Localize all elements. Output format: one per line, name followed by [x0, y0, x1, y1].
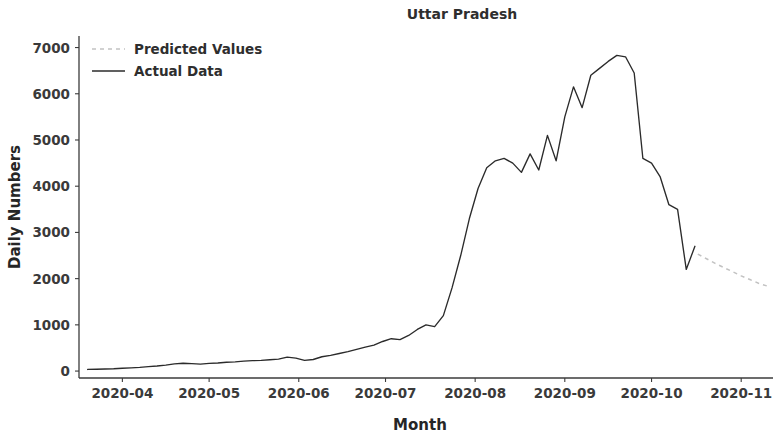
y-axis-ticks: 01000200030004000500060007000	[32, 40, 79, 380]
y-axis-title: Daily Numbers	[6, 145, 24, 269]
y-tick-label: 0	[61, 363, 70, 379]
y-tick-label: 7000	[32, 40, 70, 56]
x-tick-label: 2020-05	[178, 385, 240, 401]
x-tick-label: 2020-04	[91, 385, 153, 401]
legend-label-predicted-values: Predicted Values	[134, 41, 262, 57]
x-axis-ticks: 2020-042020-052020-062020-072020-082020-…	[91, 378, 772, 401]
legend-entry-predicted-values: Predicted Values	[92, 41, 262, 57]
y-tick-label: 3000	[32, 224, 70, 240]
x-axis-title: Month	[393, 416, 447, 434]
line-chart: Uttar Pradesh 01000200030004000500060007…	[0, 0, 775, 436]
y-tick-label: 5000	[32, 132, 70, 148]
chart-legend: Predicted Values Actual Data	[92, 41, 262, 79]
series-line-predicted-values	[698, 254, 767, 286]
x-tick-label: 2020-08	[444, 385, 506, 401]
legend-entry-actual-data: Actual Data	[92, 63, 223, 79]
y-tick-label: 1000	[32, 317, 70, 333]
x-tick-label: 2020-10	[621, 385, 683, 401]
y-tick-label: 4000	[32, 178, 70, 194]
legend-label-actual-data: Actual Data	[134, 63, 223, 79]
x-tick-label: 2020-09	[534, 385, 596, 401]
chart-title: Uttar Pradesh	[407, 6, 517, 22]
x-tick-label: 2020-06	[268, 385, 330, 401]
x-tick-label: 2020-11	[710, 385, 772, 401]
chart-figure: Uttar Pradesh 01000200030004000500060007…	[0, 0, 775, 436]
x-tick-label: 2020-07	[355, 385, 417, 401]
y-tick-label: 2000	[32, 271, 70, 287]
y-tick-label: 6000	[32, 86, 70, 102]
series-line-actual-data	[88, 55, 695, 369]
